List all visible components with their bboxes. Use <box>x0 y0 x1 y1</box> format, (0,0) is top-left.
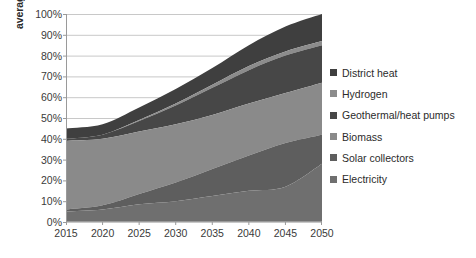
chart-figure: average global heat generation share 100… <box>0 0 476 258</box>
x-axis-tick-label: 2015 <box>46 226 86 240</box>
x-axis-tick-label: 2020 <box>83 226 123 240</box>
plot-svg <box>66 14 322 222</box>
x-axis-tick-labels: 20152020202520302035204020452050 <box>0 226 476 242</box>
y-axis-tick-labels: 100%90%80%70%60%50%40%30%20%10%0% <box>26 0 62 258</box>
x-axis-tick-label: 2035 <box>192 226 232 240</box>
legend-item[interactable]: Geothermal/heat pumps <box>330 105 476 126</box>
x-axis-tick-label: 2040 <box>229 226 269 240</box>
y-axis-tick-label: 60% <box>28 91 62 103</box>
y-axis-tick-label: 30% <box>28 154 62 166</box>
y-axis-tick-label: 70% <box>28 70 62 82</box>
y-axis-tick-label: 90% <box>28 29 62 41</box>
legend-item[interactable]: Electricity <box>330 168 476 189</box>
legend-swatch-icon <box>330 112 337 119</box>
legend-swatch-icon <box>330 90 337 97</box>
y-axis-tick-label: 50% <box>28 112 62 124</box>
legend-swatch-icon <box>330 154 337 161</box>
y-axis-tick-label: 40% <box>28 133 62 145</box>
x-axis-tick-label: 2045 <box>265 226 305 240</box>
legend-swatch-icon <box>330 69 337 76</box>
legend-item[interactable]: Biomass <box>330 126 476 147</box>
stacked-area-plot <box>66 14 322 222</box>
legend-item-label: District heat <box>342 67 397 79</box>
legend-item-label: Geothermal/heat pumps <box>342 109 455 121</box>
legend-item[interactable]: District heat <box>330 62 476 83</box>
y-axis-tick-label: 10% <box>28 195 62 207</box>
legend-swatch-icon <box>330 133 337 140</box>
legend-item[interactable]: Hydrogen <box>330 83 476 104</box>
y-axis-tick-label: 100% <box>28 8 62 20</box>
x-axis-tick-label: 2050 <box>302 226 342 240</box>
y-axis-tick-label: 20% <box>28 174 62 186</box>
x-axis-tick-label: 2025 <box>119 226 159 240</box>
legend-item-label: Biomass <box>342 131 382 143</box>
legend-item-label: Solar collectors <box>342 152 414 164</box>
legend-item[interactable]: Solar collectors <box>330 147 476 168</box>
chart-legend: District heatHydrogenGeothermal/heat pum… <box>330 62 476 190</box>
legend-swatch-icon <box>330 176 337 183</box>
legend-item-label: Hydrogen <box>342 88 388 100</box>
x-axis-tick-label: 2030 <box>156 226 196 240</box>
legend-item-label: Electricity <box>342 173 387 185</box>
y-axis-tick-label: 80% <box>28 50 62 62</box>
